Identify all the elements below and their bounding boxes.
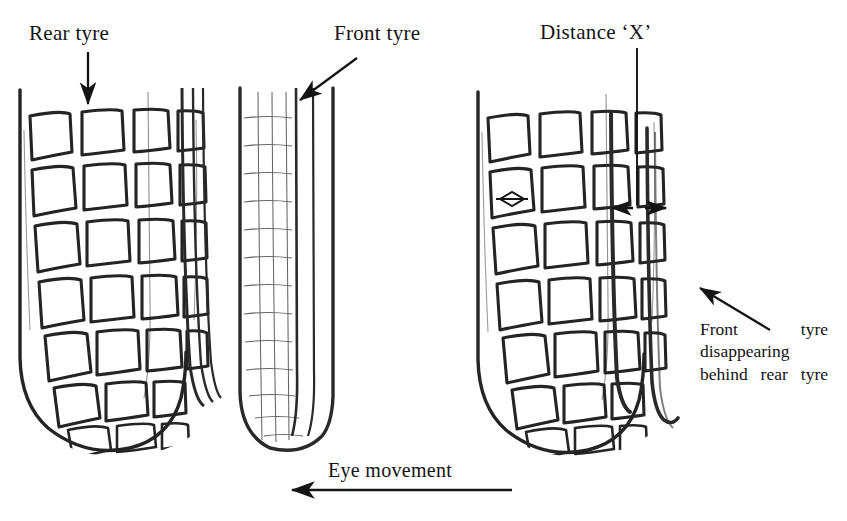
tread-marker-icon — [496, 192, 528, 206]
eye-movement-label: Eye movement — [328, 460, 452, 481]
figure-canvas: Rear tyre Front tyre Distance ‘X’ Front … — [0, 0, 847, 521]
front-tyre-label: Front tyre — [334, 22, 420, 44]
left-rear-tyre — [20, 90, 208, 458]
front-tyre-disappearing-label: Front tyre disappearing behind rear tyre — [700, 318, 828, 408]
distance-x-label: Distance ‘X’ — [540, 21, 651, 43]
diagram-artwork — [0, 0, 847, 521]
rear-tyre-label: Rear tyre — [29, 22, 109, 44]
right-front-tyre-sliver — [611, 112, 678, 428]
front-tyre-arrow — [300, 58, 357, 100]
